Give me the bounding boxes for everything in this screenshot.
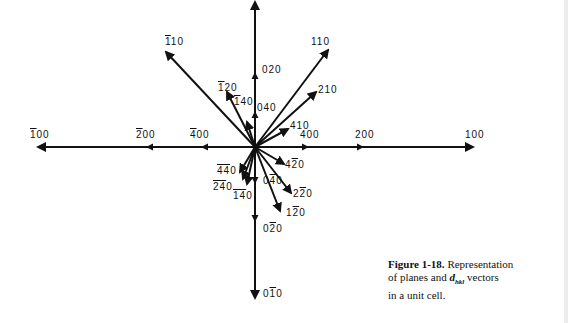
label-text: 40 <box>241 96 254 107</box>
label-text: 0 <box>230 165 237 176</box>
label-bar: 24 <box>213 181 226 192</box>
label-1m20: 120 <box>286 208 306 218</box>
arrow-400 <box>302 144 309 151</box>
page-edge <box>564 0 568 323</box>
arrow-0m20 <box>252 215 259 222</box>
label-m110: 110 <box>165 37 184 47</box>
label-0m40: 040 <box>263 176 283 186</box>
label-text: 0 <box>306 188 313 199</box>
caption-text-2: of planes and <box>388 271 449 283</box>
figure-caption: Figure 1-18. Representation of planes an… <box>388 258 558 302</box>
arrow-020 <box>252 72 259 79</box>
label-m200: 200 <box>136 130 156 140</box>
label-bar: 44 <box>217 165 230 176</box>
figure-label: Figure 1-18. <box>388 258 445 270</box>
label-text: 100 <box>465 129 485 140</box>
label-020: 020 <box>262 65 282 75</box>
label-text: 00 <box>143 129 156 140</box>
label-bar: 14 <box>233 190 246 201</box>
label-text: 020 <box>262 64 282 75</box>
label-text: 040 <box>257 102 277 113</box>
label-210: 210 <box>318 85 338 95</box>
label-200: 200 <box>355 130 375 140</box>
label-text: 0 <box>246 190 253 201</box>
label-m4m40: 440 <box>217 166 237 176</box>
label-text: 00 <box>37 129 50 140</box>
label-110: 110 <box>311 37 330 47</box>
caption-text-3: vectors <box>464 271 499 283</box>
label-text: 00 <box>197 129 210 140</box>
label-040: 040 <box>257 103 277 113</box>
caption-subscript: hkl <box>455 278 464 286</box>
caption-text-4: in a unit cell. <box>388 289 445 301</box>
label-text: 0 <box>276 288 283 299</box>
label-m140: 140 <box>234 97 254 107</box>
label-text: 0 <box>226 181 233 192</box>
label-0m10: 010 <box>263 289 283 299</box>
label-text: 400 <box>300 129 320 140</box>
label-2m20: 220 <box>293 189 313 199</box>
label-text: 210 <box>318 84 338 95</box>
label-m1m40: 140 <box>233 191 253 201</box>
label-0m20: 020 <box>263 224 283 234</box>
label-text: 20 <box>225 82 238 93</box>
label-4m20: 420 <box>285 160 305 170</box>
label-m100: 100 <box>30 130 50 140</box>
label-text: 110 <box>311 36 330 47</box>
vector-2m20 <box>255 147 291 193</box>
label-400: 400 <box>300 130 320 140</box>
label-text: 10 <box>171 36 184 47</box>
label-text: 0 <box>298 159 305 170</box>
arrow-m400 <box>201 144 208 151</box>
label-text: 0 <box>276 223 283 234</box>
label-text: 200 <box>355 129 375 140</box>
label-m2m40: 240 <box>213 182 233 192</box>
arrow-m200 <box>146 144 153 151</box>
label-100: 100 <box>465 130 485 140</box>
arrow-200 <box>357 144 364 151</box>
label-text: 0 <box>276 175 283 186</box>
label-m400: 400 <box>190 130 210 140</box>
label-m120: 120 <box>218 83 238 93</box>
arrow-0m40 <box>252 177 259 184</box>
label-text: 0 <box>299 207 306 218</box>
caption-text-1: Representation <box>445 258 514 270</box>
